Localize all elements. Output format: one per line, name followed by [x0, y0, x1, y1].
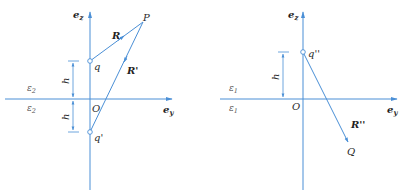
- right-origin-label: O: [292, 101, 300, 112]
- right-axis-y-label: ey: [387, 104, 398, 117]
- left-axis-y-label: ey: [163, 104, 174, 117]
- left-vector-R: [90, 22, 143, 61]
- left-point-P-label: P: [142, 12, 150, 23]
- right-point-Q-label: Q: [347, 146, 355, 157]
- left-vector-Rprime-label: R': [126, 65, 138, 76]
- left-charge-q: [88, 59, 93, 64]
- right-medium-lower-label: ε1: [229, 103, 238, 115]
- right-charge-q-doubleprime-label: q'': [308, 48, 320, 59]
- left-panel: ez ey O q q' P R R' h h ε2 ε2: [5, 9, 174, 190]
- image-charge-diagram: ez ey O q q' P R R' h h ε2 ε2 ez ey O q'…: [0, 0, 407, 192]
- right-charge-q-doubleprime: [301, 50, 306, 55]
- left-axis-z-label: ez: [73, 9, 84, 22]
- right-medium-upper-label: ε1: [229, 83, 238, 95]
- left-charge-q-prime: [88, 130, 93, 135]
- left-h-upper-label: h: [60, 78, 71, 84]
- left-vector-Rprime-arrowhead: [124, 56, 127, 62]
- right-h-label: h: [270, 74, 281, 80]
- left-vector-R-label: R: [111, 30, 120, 41]
- left-h-lower-label: h: [60, 114, 71, 120]
- right-vector-Rdoubleprime: [303, 52, 348, 142]
- right-panel: ez ey O q'' Q R'' h ε1 ε1: [220, 9, 398, 190]
- right-axis-z-label: ez: [288, 9, 299, 22]
- left-medium-upper-label: ε2: [27, 83, 36, 95]
- left-charge-q-prime-label: q': [94, 132, 103, 143]
- right-vector-Rdoubleprime-label: R'': [350, 119, 365, 130]
- left-charge-q-label: q: [94, 61, 100, 72]
- left-medium-lower-label: ε2: [27, 103, 36, 115]
- left-origin-label: O: [92, 103, 100, 114]
